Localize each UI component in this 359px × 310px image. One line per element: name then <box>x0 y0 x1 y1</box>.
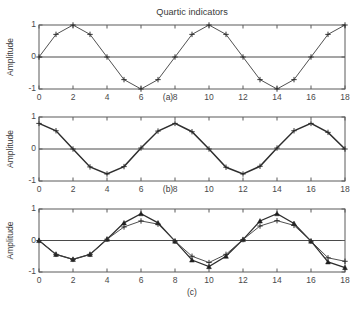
y-axis-label: Amplitude <box>5 38 15 76</box>
x-tick-label: 2 <box>71 184 76 194</box>
x-tick-label: 4 <box>105 275 110 285</box>
x-tick-label: 0 <box>37 275 42 285</box>
x-tick-label: 0 <box>37 184 42 194</box>
panel-label: (a) <box>163 92 174 102</box>
x-tick-label: 12 <box>238 184 248 194</box>
y-tick-label: -1 <box>28 266 36 276</box>
x-tick-label: 10 <box>204 92 214 102</box>
x-tick-label: 4 <box>105 92 110 102</box>
y-tick-label: 1 <box>31 19 36 29</box>
panel-label: (b) <box>163 184 174 194</box>
figure-container: Quartic indicators 024681012141618-101Am… <box>0 0 359 310</box>
x-tick-label: 10 <box>204 184 214 194</box>
y-tick-label: 1 <box>31 203 36 213</box>
y-tick-label: -1 <box>28 83 36 93</box>
x-tick-label: 16 <box>306 275 316 285</box>
x-tick-label: 8 <box>173 92 178 102</box>
x-tick-label: 10 <box>204 275 214 285</box>
x-tick-label: 6 <box>139 92 144 102</box>
x-tick-label: 18 <box>340 92 350 102</box>
x-tick-label: 16 <box>306 184 316 194</box>
x-tick-label: 14 <box>272 92 282 102</box>
y-axis-label: Amplitude <box>5 221 15 259</box>
x-tick-label: 8 <box>173 184 178 194</box>
x-tick-label: 2 <box>71 275 76 285</box>
y-axis-label: Amplitude <box>5 130 15 168</box>
y-tick-label: 0 <box>31 51 36 61</box>
x-tick-label: 2 <box>71 92 76 102</box>
y-tick-label: 0 <box>31 143 36 153</box>
chart-title: Quartic indicators <box>156 7 228 17</box>
x-tick-label: 14 <box>272 275 282 285</box>
x-tick-label: 8 <box>173 275 178 285</box>
x-tick-label: 16 <box>306 92 316 102</box>
x-tick-label: 12 <box>238 275 248 285</box>
x-tick-label: 18 <box>340 184 350 194</box>
x-tick-label: 6 <box>139 275 144 285</box>
x-tick-label: 6 <box>139 184 144 194</box>
figure-background <box>0 0 359 310</box>
y-tick-label: -1 <box>28 175 36 185</box>
x-tick-label: 0 <box>37 92 42 102</box>
panel-label: (c) <box>187 287 197 297</box>
y-tick-label: 0 <box>31 235 36 245</box>
quartic-indicators-figure: Quartic indicators 024681012141618-101Am… <box>0 0 359 310</box>
x-tick-label: 18 <box>340 275 350 285</box>
y-tick-label: 1 <box>31 111 36 121</box>
x-tick-label: 14 <box>272 184 282 194</box>
x-tick-label: 4 <box>105 184 110 194</box>
x-tick-label: 12 <box>238 92 248 102</box>
